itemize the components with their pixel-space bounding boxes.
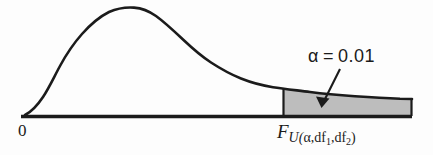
f-distribution-figure: 0 α=0.01 FU(α,df1,df2) (0, 0, 433, 155)
figure-canvas (0, 0, 433, 155)
